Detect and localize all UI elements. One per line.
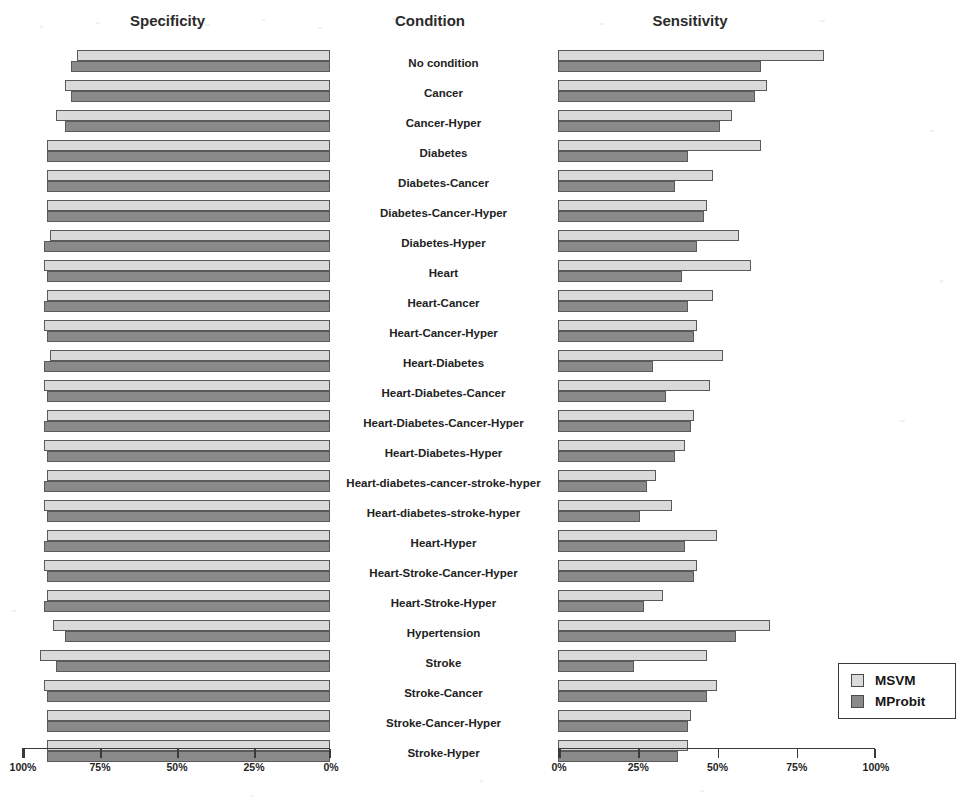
legend-swatch-mprobit (851, 695, 864, 708)
bar-sensitivity-msvm (558, 380, 710, 391)
panel-title-specificity: Specificity (75, 12, 260, 29)
condition-row: Heart-Diabetes (336, 348, 551, 378)
condition-row: Cancer (336, 78, 551, 108)
condition-label: Stroke-Hyper (336, 742, 551, 764)
bar-specificity-mprobit (47, 181, 330, 192)
bar-sensitivity-mprobit (558, 601, 644, 612)
axis-tick-label: 50% (166, 761, 187, 773)
condition-row: Heart (336, 258, 551, 288)
sensitivity-bar-group (558, 708, 875, 738)
bar-specificity-msvm (47, 200, 330, 211)
condition-label: Stroke (336, 652, 551, 674)
condition-row: Cancer-Hyper (336, 108, 551, 138)
bar-specificity-msvm (50, 230, 330, 241)
bar-sensitivity-mprobit (558, 151, 688, 162)
condition-label: Hypertension (336, 622, 551, 644)
bar-specificity-msvm (44, 260, 330, 271)
bar-specificity-mprobit (44, 241, 330, 252)
specificity-bar-group (22, 498, 330, 528)
bar-specificity-mprobit (65, 631, 330, 642)
bar-specificity-msvm (56, 110, 330, 121)
bar-sensitivity-mprobit (558, 451, 675, 462)
specificity-bar-group (22, 558, 330, 588)
axis-tick (874, 749, 876, 758)
condition-label-column: No conditionCancerCancer-HyperDiabetesDi… (336, 48, 551, 741)
axis-tick (23, 749, 25, 758)
specificity-plot-area (22, 48, 330, 741)
legend: MSVMMProbit (838, 663, 956, 719)
sensitivity-bar-group (558, 258, 875, 288)
specificity-bar-group (22, 138, 330, 168)
bar-specificity-mprobit (47, 151, 330, 162)
condition-row: Diabetes-Hyper (336, 228, 551, 258)
condition-label: Stroke-Cancer (336, 682, 551, 704)
condition-label: Heart-Diabetes (336, 352, 551, 374)
axis-tick (100, 749, 102, 758)
legend-swatch-msvm (851, 674, 864, 687)
legend-item-mprobit[interactable]: MProbit (851, 691, 955, 712)
bar-specificity-msvm (47, 170, 330, 181)
bar-specificity-msvm (44, 380, 330, 391)
bar-sensitivity-msvm (558, 290, 713, 301)
condition-row: Heart-diabetes-stroke-hyper (336, 498, 551, 528)
condition-row: Heart-Diabetes-Cancer-Hyper (336, 408, 551, 438)
axis-tick-label: 25% (243, 761, 264, 773)
bar-sensitivity-msvm (558, 440, 685, 451)
condition-row: Stroke-Cancer-Hyper (336, 708, 551, 738)
bar-specificity-msvm (47, 710, 330, 721)
specificity-bar-group (22, 618, 330, 648)
axis-tick-label: 0% (551, 761, 566, 773)
axis-tick-label: 0% (323, 761, 338, 773)
condition-row: Heart-Diabetes-Cancer (336, 378, 551, 408)
bar-specificity-msvm (50, 350, 330, 361)
axis-tick (718, 749, 720, 758)
bar-specificity-mprobit (47, 391, 330, 402)
bar-sensitivity-mprobit (558, 511, 640, 522)
panel-title-sensitivity: Sensitivity (615, 12, 765, 29)
bar-sensitivity-msvm (558, 470, 656, 481)
condition-label: Heart-Stroke-Cancer-Hyper (336, 562, 551, 584)
condition-label: Heart (336, 262, 551, 284)
bar-specificity-mprobit (65, 121, 330, 132)
bar-specificity-mprobit (47, 331, 330, 342)
specificity-bar-group (22, 228, 330, 258)
specificity-bar-group (22, 348, 330, 378)
sensitivity-bar-group (558, 198, 875, 228)
bar-specificity-msvm (53, 620, 330, 631)
sensitivity-bar-group (558, 168, 875, 198)
specificity-bar-group (22, 408, 330, 438)
condition-label: Cancer (336, 82, 551, 104)
legend-label-mprobit: MProbit (875, 694, 925, 709)
legend-item-msvm[interactable]: MSVM (851, 670, 955, 691)
condition-label: Cancer-Hyper (336, 112, 551, 134)
bar-specificity-mprobit (71, 91, 330, 102)
bar-sensitivity-msvm (558, 200, 707, 211)
condition-row: Stroke-Cancer (336, 678, 551, 708)
bar-specificity-msvm (44, 440, 330, 451)
sensitivity-bar-group (558, 288, 875, 318)
sensitivity-bar-group (558, 528, 875, 558)
bar-specificity-mprobit (44, 481, 330, 492)
bar-specificity-msvm (47, 530, 330, 541)
bar-specificity-mprobit (56, 661, 330, 672)
bar-specificity-mprobit (44, 361, 330, 372)
bar-sensitivity-msvm (558, 260, 751, 271)
bar-specificity-msvm (47, 290, 330, 301)
bar-specificity-mprobit (71, 61, 330, 72)
condition-row: Heart-Diabetes-Hyper (336, 438, 551, 468)
bar-sensitivity-mprobit (558, 61, 761, 72)
condition-label: Heart-Cancer (336, 292, 551, 314)
condition-label: No condition (336, 52, 551, 74)
bar-specificity-msvm (47, 410, 330, 421)
axis-tick-label: 100% (863, 761, 890, 773)
bar-sensitivity-mprobit (558, 421, 691, 432)
condition-label: Diabetes-Cancer-Hyper (336, 202, 551, 224)
axis-tick (254, 749, 256, 758)
bar-specificity-msvm (47, 140, 330, 151)
condition-label: Heart-Stroke-Hyper (336, 592, 551, 614)
bar-specificity-msvm (65, 80, 330, 91)
axis-tick-label: 75% (89, 761, 110, 773)
specificity-bar-group (22, 468, 330, 498)
bar-sensitivity-mprobit (558, 121, 720, 132)
bar-sensitivity-msvm (558, 680, 717, 691)
